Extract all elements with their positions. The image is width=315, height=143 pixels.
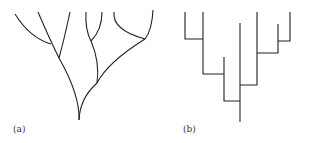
panel-label-b: (b): [183, 124, 196, 134]
panel-label-a: (a): [13, 124, 25, 134]
tree-b: [185, 12, 290, 122]
tree-diagrams: [0, 0, 315, 143]
tree-a: [15, 10, 153, 120]
